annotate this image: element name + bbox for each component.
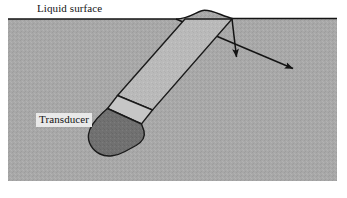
transducer-label: Transducer [36,113,92,127]
transducer-liquid-diagram [0,0,347,198]
figure-root: Liquid surface Transducer [0,0,347,198]
liquid-surface-label: Liquid surface [36,2,103,15]
